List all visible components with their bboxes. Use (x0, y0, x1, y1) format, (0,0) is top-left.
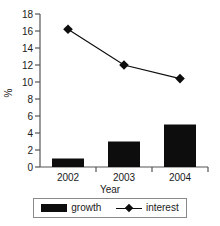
chart-figure: 0 2 4 6 8 10 12 14 16 18 % (0, 0, 220, 226)
legend-label-growth: growth (71, 203, 101, 213)
y-tick-label: 2 (27, 145, 33, 156)
x-tick-label: 2004 (169, 172, 192, 183)
y-tick-label: 4 (27, 128, 33, 139)
x-tick-label: 2003 (113, 172, 136, 183)
y-tick-label: 10 (22, 77, 34, 88)
chart-legend: growth interest (33, 198, 187, 218)
y-tick-label: 18 (22, 9, 34, 20)
bar-series-growth (52, 125, 196, 168)
y-tick-label: 12 (22, 60, 34, 71)
y-tick-label: 8 (27, 94, 33, 105)
interest-line-path (68, 29, 180, 78)
y-tick-label: 16 (22, 26, 34, 37)
legend-item-growth: growth (41, 203, 101, 213)
x-axis-tick-labels: 2002 2003 2004 (57, 172, 192, 183)
interest-marker-2004 (175, 74, 185, 84)
interest-marker-2002 (63, 24, 73, 34)
filled-rect-icon (41, 204, 67, 212)
y-axis-tick-labels: 0 2 4 6 8 10 12 14 16 18 (22, 9, 34, 173)
y-tick-label: 0 (27, 162, 33, 173)
bar-growth-2003 (108, 142, 140, 168)
bar-growth-2002 (52, 159, 84, 168)
x-axis-title: Year (0, 184, 220, 195)
y-axis-title: % (3, 88, 14, 97)
line-series-interest (63, 24, 185, 83)
line-diamond-icon (116, 204, 142, 212)
interest-marker-2003 (119, 60, 129, 70)
legend-item-interest: interest (116, 203, 179, 213)
y-tick-label: 6 (27, 111, 33, 122)
y-tick-label: 14 (22, 43, 34, 54)
x-tick-label: 2002 (57, 172, 80, 183)
y-axis-ticks (35, 14, 40, 167)
bar-growth-2004 (164, 125, 196, 168)
legend-label-interest: interest (146, 203, 179, 213)
combo-bar-line-chart: 0 2 4 6 8 10 12 14 16 18 % (0, 0, 220, 186)
